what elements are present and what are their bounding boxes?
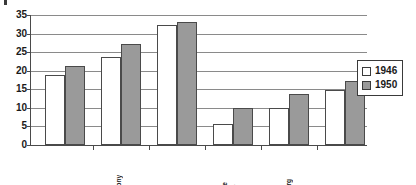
x-tick-mark bbox=[261, 146, 262, 150]
bar-group-lower-saxony bbox=[101, 15, 141, 145]
y-tick-label: 30 bbox=[3, 29, 27, 39]
chart-legend: 1946 1950 bbox=[357, 60, 403, 96]
bar-group-baden-wurttemberg bbox=[269, 15, 309, 145]
bar-1950 bbox=[233, 108, 253, 145]
y-tick-label: 5 bbox=[3, 121, 27, 131]
bar-1950 bbox=[177, 22, 197, 145]
bar-1946 bbox=[213, 124, 233, 146]
legend-item-1946: 1946 bbox=[362, 64, 397, 78]
bar-1946 bbox=[45, 75, 65, 145]
y-tick-label: 35 bbox=[3, 10, 27, 20]
bar-1946 bbox=[101, 57, 121, 145]
x-tick-mark bbox=[317, 146, 318, 150]
bar-1946 bbox=[325, 90, 345, 145]
bar-group-north-rhine-westphalia bbox=[213, 15, 253, 145]
bar-1950 bbox=[121, 44, 141, 145]
y-tick-label: 0 bbox=[3, 140, 27, 150]
y-axis-labels: 35 30 25 20 15 10 5 0 bbox=[0, 0, 27, 185]
legend-label: 1950 bbox=[375, 80, 397, 90]
legend-swatch-icon bbox=[362, 67, 371, 76]
x-tick-mark bbox=[93, 146, 94, 150]
y-tick-label: 10 bbox=[3, 103, 27, 113]
bar-1946 bbox=[157, 25, 177, 145]
plot-area bbox=[31, 15, 367, 145]
legend-swatch-icon bbox=[362, 81, 371, 90]
bar-1950 bbox=[289, 94, 309, 145]
bar-chart: 35 30 25 20 15 10 5 0 bbox=[0, 0, 416, 185]
x-label-line: Lower Saxony bbox=[115, 175, 123, 185]
x-tick-mark bbox=[205, 146, 206, 150]
x-label-line: North Rhine bbox=[221, 182, 229, 185]
bar-group-schleswig-holstein bbox=[157, 15, 197, 145]
legend-item-1950: 1950 bbox=[362, 78, 397, 92]
x-tick-mark bbox=[149, 146, 150, 150]
x-label-line: Wurttemberg bbox=[285, 179, 293, 185]
legend-label: 1946 bbox=[375, 66, 397, 76]
bar-1946 bbox=[269, 108, 289, 145]
y-tick-label: 25 bbox=[3, 47, 27, 57]
bar-1950 bbox=[65, 66, 85, 145]
bar-group-bavaria bbox=[45, 15, 85, 145]
x-axis-ticks bbox=[31, 146, 367, 150]
y-tick-label: 15 bbox=[3, 84, 27, 94]
x-axis-labels: Bavaria Lower Saxony Schleswig Holstein … bbox=[31, 151, 367, 185]
y-tick-label: 20 bbox=[3, 66, 27, 76]
